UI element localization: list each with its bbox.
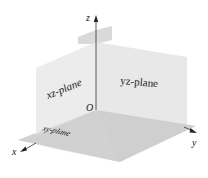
z-axis-arrow-icon <box>94 15 98 22</box>
coordinate-planes-diagram: z x y O yz-plane xz-plane xy-plane <box>0 0 208 178</box>
z-axis-label: z <box>85 12 90 23</box>
origin-label: O <box>86 102 93 113</box>
xz-plane-back-part <box>78 26 112 44</box>
y-axis-arrow-icon <box>190 128 198 133</box>
y-axis-label: y <box>191 137 197 148</box>
x-axis-arrow-icon <box>20 147 27 153</box>
x-axis-label: x <box>11 146 17 157</box>
